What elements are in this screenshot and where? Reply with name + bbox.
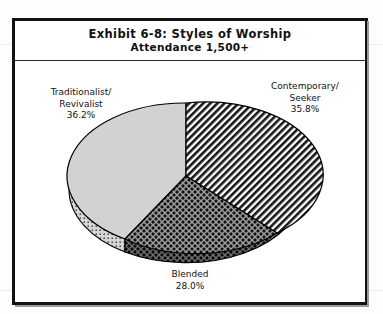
slice-value-blended: 28.0% <box>125 281 255 293</box>
slice-label-traditionalist-line1: Traditionalist/ <box>21 87 141 99</box>
pie-chart-svg <box>15 21 371 308</box>
slice-label-contemporary-line1: Contemporary/ <box>243 81 367 93</box>
slice-value-contemporary: 35.8% <box>243 104 367 116</box>
slice-label-traditionalist: Traditionalist/ Revivalist 36.2% <box>21 87 141 122</box>
slice-label-contemporary: Contemporary/ Seeker 35.8% <box>243 81 367 116</box>
slice-label-traditionalist-line2: Revivalist <box>21 99 141 111</box>
slice-label-contemporary-line2: Seeker <box>243 93 367 105</box>
scanned-page: Exhibit 6-8: Styles of Worship Attendanc… <box>0 0 383 314</box>
exhibit-frame: Exhibit 6-8: Styles of Worship Attendanc… <box>12 18 368 305</box>
slice-label-blended: Blended 28.0% <box>125 269 255 292</box>
slice-value-traditionalist: 36.2% <box>21 110 141 122</box>
pie-chart: Traditionalist/ Revivalist 36.2% Contemp… <box>15 21 371 308</box>
slice-label-blended-line1: Blended <box>125 269 255 281</box>
